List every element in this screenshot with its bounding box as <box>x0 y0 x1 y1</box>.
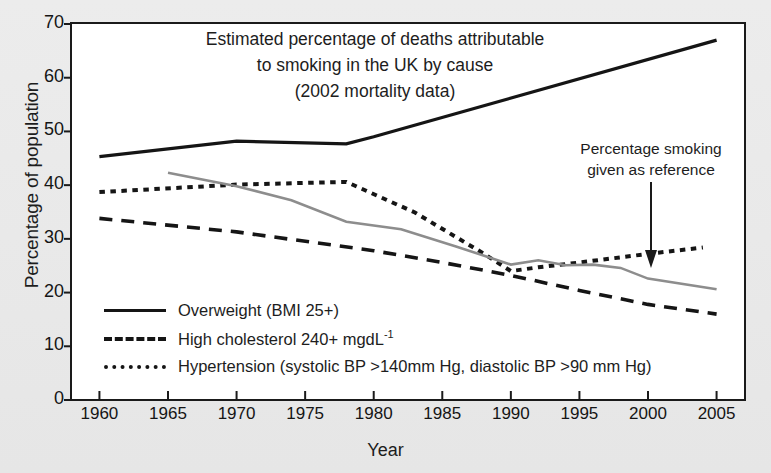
title-line-1: Estimated percentage of deaths attributa… <box>180 26 570 52</box>
y-tick-label: 70 <box>8 12 64 33</box>
title-line-2: to smoking in the UK by cause <box>180 52 570 78</box>
figure-root: Estimated percentage of deaths attributa… <box>0 0 771 473</box>
legend-label-overweight: Overweight (BMI 25+) <box>178 301 339 320</box>
x-tick-label: 1970 <box>202 404 272 424</box>
x-tick-label: 1965 <box>133 404 203 424</box>
legend-label-cholesterol-sup: -1 <box>384 328 394 340</box>
y-tick-label: 60 <box>8 66 64 87</box>
y-tick-label: 30 <box>8 227 64 248</box>
legend-item-overweight: Overweight (BMI 25+) <box>104 296 652 324</box>
y-tick-label: 20 <box>8 281 64 302</box>
x-axis-label: Year <box>0 440 771 461</box>
y-tick-label: 0 <box>8 388 64 409</box>
y-tick-label: 40 <box>8 173 64 194</box>
x-tick-label: 2000 <box>613 404 683 424</box>
legend-item-hypertension: Hypertension (systolic BP >140mm Hg, dia… <box>104 352 652 380</box>
x-tick-label: 1985 <box>407 404 477 424</box>
dashed-line-key <box>104 330 166 346</box>
legend-label-cholesterol: High cholesterol 240+ mgdL-1 <box>178 328 394 349</box>
legend-label-cholesterol-text: High cholesterol 240+ mgdL <box>178 329 384 347</box>
smoking-reference-annotation: Percentage smoking given as reference <box>556 138 746 180</box>
legend-label-hypertension: Hypertension (systolic BP >140mm Hg, dia… <box>178 357 652 376</box>
dotted-line-key <box>104 358 166 374</box>
annotation-line-2: given as reference <box>556 159 746 180</box>
x-tick-label: 1975 <box>270 404 340 424</box>
chart-title: Estimated percentage of deaths attributa… <box>180 26 570 104</box>
annotation-line-1: Percentage smoking <box>556 138 746 159</box>
x-tick-label: 1990 <box>476 404 546 424</box>
x-tick-label: 1995 <box>544 404 614 424</box>
legend: Overweight (BMI 25+) High cholesterol 24… <box>104 296 652 380</box>
x-tick-label: 2005 <box>682 404 752 424</box>
legend-item-cholesterol: High cholesterol 240+ mgdL-1 <box>104 324 652 352</box>
solid-line-key <box>104 302 166 318</box>
x-tick-label: 1980 <box>339 404 409 424</box>
y-tick-label: 50 <box>8 119 64 140</box>
down-arrow-icon <box>645 182 657 268</box>
title-line-3: (2002 mortality data) <box>180 78 570 104</box>
x-tick-label: 1960 <box>64 404 134 424</box>
y-tick-label: 10 <box>8 334 64 355</box>
